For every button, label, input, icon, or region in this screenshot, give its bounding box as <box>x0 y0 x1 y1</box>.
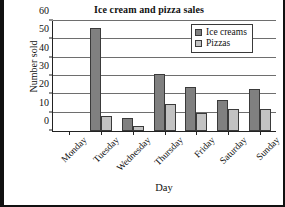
x-tick-label: Sunday <box>254 135 281 162</box>
y-tick-label: 60 <box>23 5 49 16</box>
y-tick-label: 0 <box>23 115 49 126</box>
bar <box>122 118 133 131</box>
bar <box>154 74 165 131</box>
x-axis-title: Day <box>52 182 276 193</box>
bar <box>249 89 260 131</box>
bar <box>196 113 207 131</box>
bar <box>217 100 228 131</box>
bar <box>228 109 239 131</box>
bar <box>90 28 101 131</box>
bar <box>133 126 144 132</box>
bar <box>260 109 271 131</box>
bar-group <box>85 21 117 131</box>
legend-item: Ice creams <box>195 27 247 38</box>
legend-item: Pizzas <box>195 38 247 49</box>
legend-swatch-icon <box>195 40 202 47</box>
bar <box>101 116 112 131</box>
y-axis-title: Number sold <box>28 19 39 115</box>
chart-frame: Ice cream and pizza sales 0102030405060 … <box>0 0 285 207</box>
bar-group <box>53 21 85 131</box>
x-tick-label-cell: Thursday <box>148 133 180 179</box>
bar-group <box>117 21 149 131</box>
x-tick-label-cell: Tuesday <box>84 133 116 179</box>
chart-title: Ice cream and pizza sales <box>64 4 234 15</box>
chart-legend: Ice creamsPizzas <box>191 24 253 53</box>
legend-label: Ice creams <box>206 27 247 38</box>
x-tick-label-cell: Sunday <box>244 133 276 179</box>
x-axis-tick-labels: MondayTuesdayWednesdayThursdayFridaySatu… <box>52 133 276 179</box>
x-tick-label-cell: Saturday <box>212 133 244 179</box>
bar <box>165 104 176 132</box>
bar-group <box>149 21 181 131</box>
legend-label: Pizzas <box>206 38 230 49</box>
x-tick-label-cell: Wednesday <box>116 133 148 179</box>
x-tick-label-cell: Friday <box>180 133 212 179</box>
x-tick-label-cell: Monday <box>52 133 84 179</box>
legend-swatch-icon <box>195 29 202 36</box>
bar <box>185 87 196 131</box>
